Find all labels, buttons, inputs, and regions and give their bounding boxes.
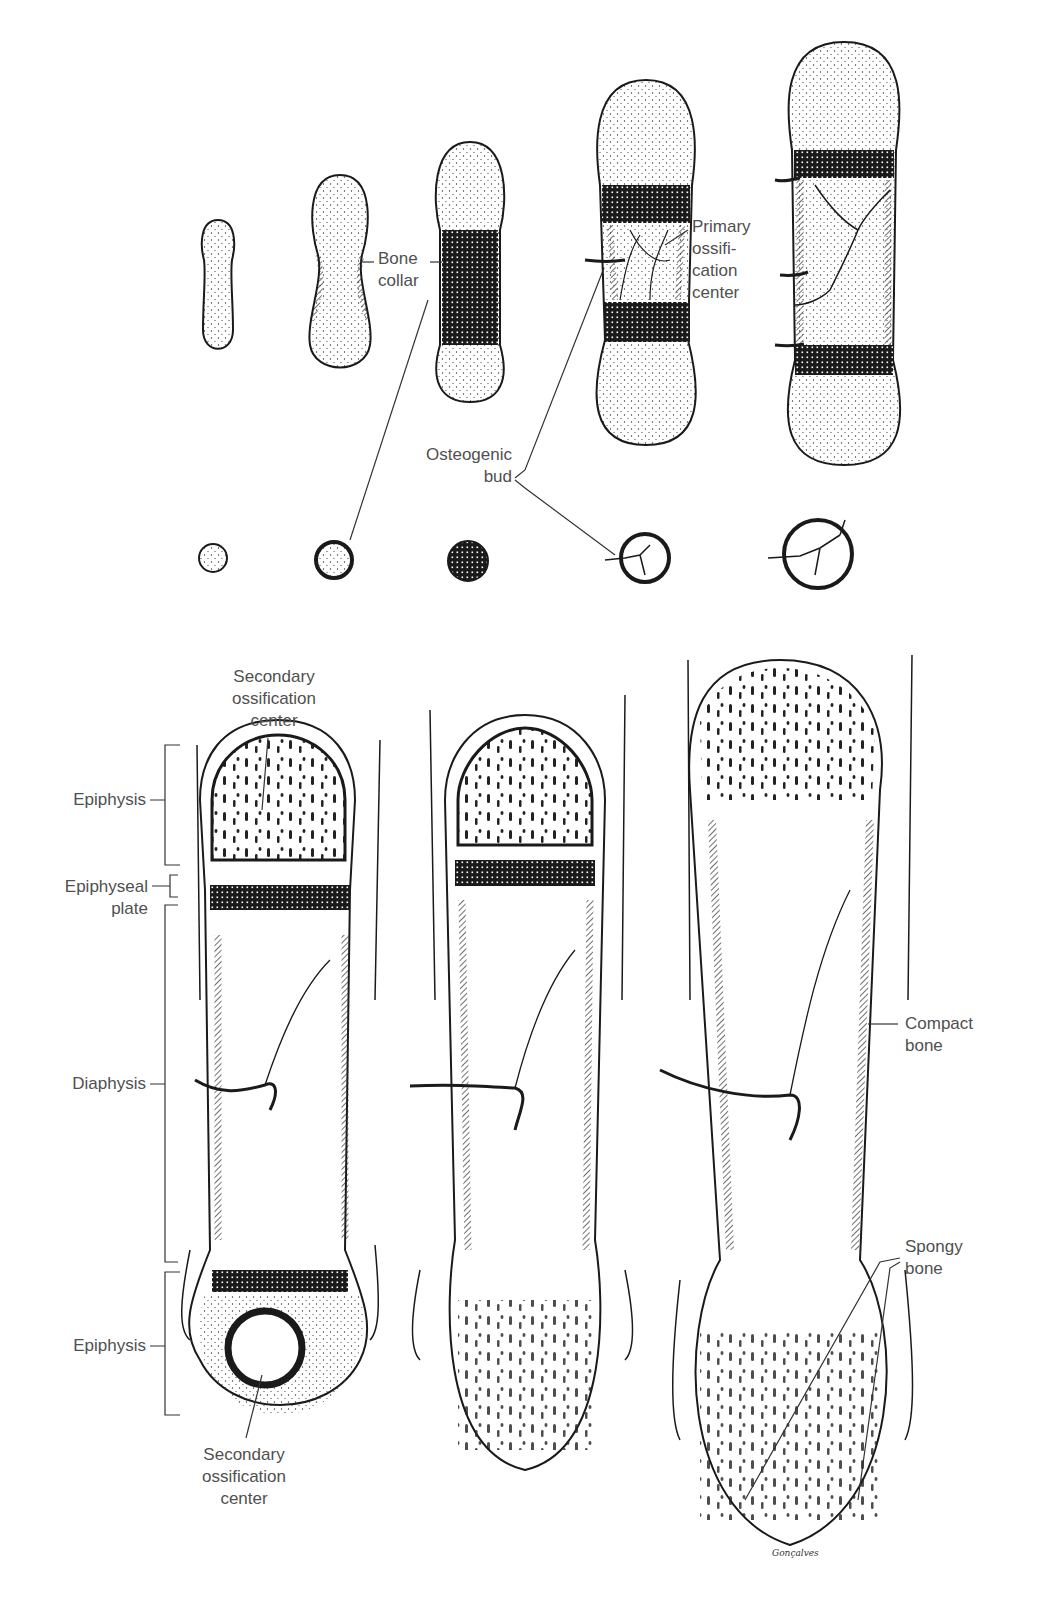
ossification-diagram <box>0 0 1062 1604</box>
label-compact-bone: Compact bone <box>905 1013 973 1057</box>
label-diaphysis: Diaphysis <box>20 1073 146 1095</box>
bone-stage-1 <box>202 220 234 349</box>
bracket-epiphysis-top <box>150 745 180 865</box>
brackets <box>150 745 180 1415</box>
label-epiphyseal-plate: Epiphyseal plate <box>20 876 148 920</box>
label-bone-collar: Bone collar <box>378 248 419 292</box>
bone-stage-5 <box>788 42 900 465</box>
label-secondary-ossification-center-bottom: Secondary ossification center <box>180 1444 308 1510</box>
bone-stage-3-mineralized <box>442 230 498 345</box>
bracket-epiphyseal-plate <box>152 875 178 897</box>
artist-signature: Gonçalves <box>772 1548 819 1558</box>
cross-section-2 <box>316 542 352 578</box>
label-osteogenic-bud: Osteogenic bud <box>400 444 512 488</box>
cross-section-3 <box>448 541 488 581</box>
bottom-row-bones <box>189 660 887 1545</box>
cross-section-1 <box>199 544 227 572</box>
label-epiphysis-top: Epiphysis <box>20 789 146 811</box>
label-epiphysis-bottom: Epiphysis <box>20 1335 146 1357</box>
label-primary-ossification-center: Primary ossifi- cation center <box>692 216 751 304</box>
bracket-epiphysis-bottom <box>150 1272 180 1415</box>
label-secondary-ossification-center-top: Secondary ossification center <box>210 666 338 732</box>
bracket-diaphysis <box>150 905 178 1262</box>
top-row-bones <box>202 42 900 465</box>
label-spongy-bone: Spongy bone <box>905 1236 963 1280</box>
cross-sections <box>199 520 852 588</box>
secondary-ossification-center-bottom <box>228 1311 302 1385</box>
